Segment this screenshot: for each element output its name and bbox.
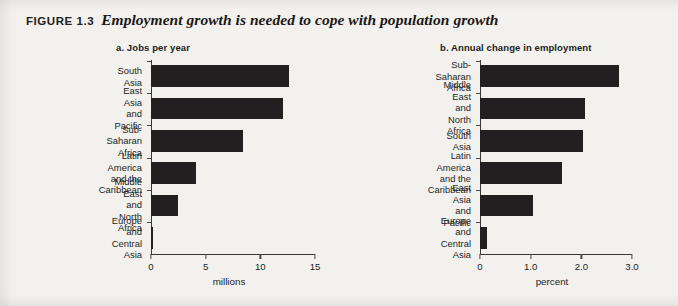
x-axis-line-a xyxy=(151,254,315,255)
x-axis-tick-label: 5 xyxy=(203,261,208,272)
bar xyxy=(151,195,178,217)
bar xyxy=(151,162,196,184)
bar xyxy=(480,227,487,249)
figure-number: FIGURE 1.3 xyxy=(26,15,94,27)
x-axis-tick-label: 1.0 xyxy=(524,261,537,272)
bar-row: South Asia xyxy=(480,130,632,152)
chart-panel-a: a. Jobs per year millions South AsiaEast… xyxy=(4,38,340,300)
category-label: South Asia xyxy=(118,65,143,88)
category-label: South Asia xyxy=(447,129,472,152)
bar xyxy=(480,98,585,120)
bar xyxy=(151,130,243,152)
x-axis-tick xyxy=(581,254,582,259)
y-axis-tick xyxy=(476,93,480,94)
y-axis-tick xyxy=(476,190,480,191)
y-axis-tick xyxy=(476,158,480,159)
y-axis-tick xyxy=(476,222,480,223)
x-axis-line-b xyxy=(480,254,632,255)
bar-row: Europe and Central Asia xyxy=(151,227,315,249)
bar-row: East Asia and Pacific xyxy=(151,98,315,120)
chart-panel-b: b. Annual change in employment percent S… xyxy=(336,38,676,300)
plot-area-b: percent Sub-Saharan AfricaMiddle East an… xyxy=(480,60,632,254)
bar xyxy=(151,227,153,249)
bar xyxy=(151,98,283,120)
figure-container: FIGURE 1.3 Employment growth is needed t… xyxy=(0,0,678,306)
y-axis-tick xyxy=(147,190,151,191)
category-label: Europe and Central Asia xyxy=(441,215,471,261)
y-axis-tick xyxy=(147,61,151,62)
bar-row: Sub-Saharan Africa xyxy=(151,130,315,152)
x-axis-tick-label: 15 xyxy=(310,261,321,272)
bar-row: Middle East and North Africa xyxy=(151,195,315,217)
category-label: Europe and Central Asia xyxy=(112,215,142,261)
y-axis-tick xyxy=(147,222,151,223)
panel-b-title: b. Annual change in employment xyxy=(440,42,592,53)
x-axis-tick xyxy=(260,254,261,259)
x-axis-tick-label: 10 xyxy=(255,261,266,272)
x-axis-tick xyxy=(314,254,315,259)
bar-row: Sub-Saharan Africa xyxy=(480,65,632,87)
x-axis-tick xyxy=(530,254,531,259)
x-axis-tick-label: 2.0 xyxy=(575,261,588,272)
y-axis-line-a xyxy=(151,60,152,254)
x-axis-tick xyxy=(205,254,206,259)
bar xyxy=(480,195,533,217)
plot-area-a: millions South AsiaEast Asia and Pacific… xyxy=(151,60,315,254)
x-axis-tick-label: 3.0 xyxy=(625,261,638,272)
bar-row: Latin America and the Caribbean xyxy=(151,162,315,184)
bar-row: East Asia and Pacific xyxy=(480,195,632,217)
y-axis-line-b xyxy=(480,60,481,254)
figure-title: FIGURE 1.3 Employment growth is needed t… xyxy=(26,11,498,29)
y-axis-tick xyxy=(147,93,151,94)
bar-row: Europe and Central Asia xyxy=(480,227,632,249)
x-axis-title-a: millions xyxy=(213,276,246,287)
x-axis-tick xyxy=(631,254,632,259)
bar xyxy=(480,130,583,152)
y-axis-tick xyxy=(476,61,480,62)
y-axis-tick xyxy=(147,158,151,159)
x-axis-tick-label: 0 xyxy=(477,261,482,272)
bar xyxy=(480,162,562,184)
bar-row: South Asia xyxy=(151,65,315,87)
figure-caption: Employment growth is needed to cope with… xyxy=(101,11,498,29)
x-axis-tick xyxy=(150,254,151,259)
y-axis-tick xyxy=(147,125,151,126)
bar xyxy=(480,65,619,87)
panel-a-title: a. Jobs per year xyxy=(116,42,190,53)
x-axis-title-b: percent xyxy=(536,276,569,287)
bar xyxy=(151,65,289,87)
bar-row: Middle East and North Africa xyxy=(480,98,632,120)
x-axis-tick-label: 0 xyxy=(148,261,153,272)
x-axis-tick xyxy=(479,254,480,259)
bar-row: Latin America and the Caribbean xyxy=(480,162,632,184)
y-axis-tick xyxy=(476,125,480,126)
